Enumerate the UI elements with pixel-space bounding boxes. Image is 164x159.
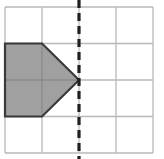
figure-container: Grid with shaded pentagon and vertical d… <box>0 0 164 159</box>
geometry-figure: Grid with shaded pentagon and vertical d… <box>0 0 164 159</box>
